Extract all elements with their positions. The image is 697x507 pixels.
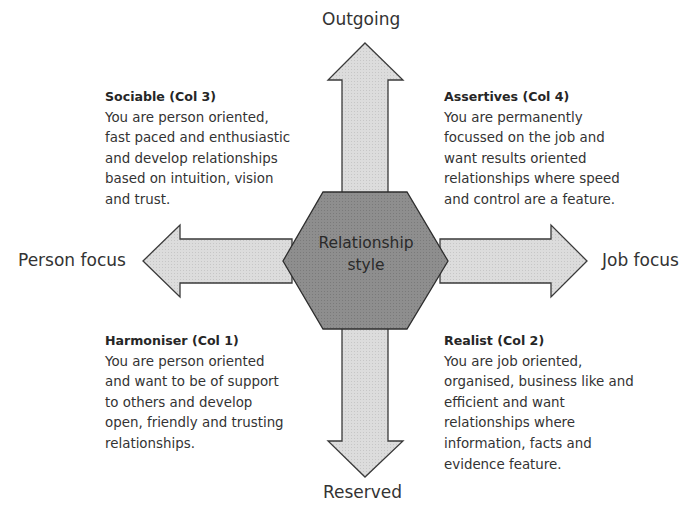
quadrant-text-line: want results oriented	[444, 149, 684, 170]
axis-label-person-focus: Person focus	[18, 252, 126, 269]
axis-label-job-focus: Job focus	[602, 252, 679, 269]
quadrant-realist: Realist (Col 2) You are job oriented, or…	[444, 331, 684, 475]
quadrant-text-line: based on intuition, vision	[105, 169, 345, 190]
quadrant-title: Harmoniser (Col 1)	[105, 331, 345, 352]
center-label-line1: Relationship	[303, 232, 429, 254]
quadrant-text-line: relationships.	[105, 434, 345, 455]
quadrant-harmoniser: Harmoniser (Col 1) You are person orient…	[105, 331, 345, 455]
quadrant-text-line: evidence feature.	[444, 455, 684, 476]
quadrant-sociable: Sociable (Col 3) You are person oriented…	[105, 87, 345, 211]
center-label-line2: style	[303, 254, 429, 276]
quadrant-text-line: You are permanently	[444, 108, 684, 129]
quadrant-text-line: information, facts and	[444, 434, 684, 455]
quadrant-text-line: efficient and want	[444, 393, 684, 414]
quadrant-text-line: to others and develop	[105, 393, 345, 414]
axis-label-reserved: Reserved	[323, 484, 402, 501]
quadrant-text-line: You are person oriented,	[105, 108, 345, 129]
quadrant-title: Realist (Col 2)	[444, 331, 684, 352]
quadrant-title: Assertives (Col 4)	[444, 87, 684, 108]
quadrant-title: Sociable (Col 3)	[105, 87, 345, 108]
quadrant-text-line: organised, business like and	[444, 372, 684, 393]
arrow-left-person-focus	[143, 225, 292, 297]
quadrant-text-line: fast paced and enthusiastic	[105, 128, 345, 149]
center-label: Relationship style	[303, 232, 429, 276]
quadrant-assertives: Assertives (Col 4) You are permanently f…	[444, 87, 684, 211]
quadrant-text-line: You are person oriented	[105, 352, 345, 373]
quadrant-text-line: open, friendly and trusting	[105, 413, 345, 434]
quadrant-text-line: focussed on the job and	[444, 128, 684, 149]
quadrant-text-line: and want to be of support	[105, 372, 345, 393]
quadrant-text-line: You are job oriented,	[444, 352, 684, 373]
quadrant-text-line: and trust.	[105, 190, 345, 211]
quadrant-text-line: and develop relationships	[105, 149, 345, 170]
quadrant-text-line: relationships where speed	[444, 169, 684, 190]
axis-label-outgoing: Outgoing	[322, 11, 400, 28]
quadrant-text-line: and control are a feature.	[444, 190, 684, 211]
arrow-right-job-focus	[440, 225, 587, 297]
quadrant-text-line: relationships where	[444, 413, 684, 434]
